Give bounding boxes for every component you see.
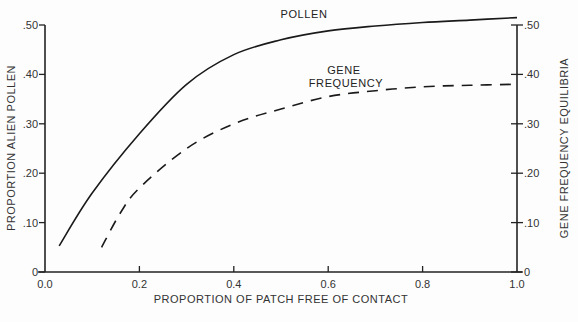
- y-tick-label-left: .50: [23, 19, 38, 31]
- pollen-line: [59, 18, 517, 246]
- y-tick-label-right: .10: [524, 217, 539, 229]
- y-tick-label-right: .30: [524, 118, 539, 130]
- x-tick-label: 1.0: [509, 278, 524, 290]
- x-ticks: 0.00.20.40.60.81.0: [37, 266, 524, 290]
- series-lines: [59, 18, 517, 248]
- gene-frequency-label-line2: FREQUENCY: [309, 77, 384, 89]
- y-tick-label-left: .10: [23, 217, 38, 229]
- x-tick-label: 0.0: [37, 278, 52, 290]
- y-axis-title-right: GENE FREQUENCY EQUILIBRIA: [558, 58, 570, 239]
- y-tick-label-right: .20: [524, 167, 539, 179]
- y-tick-label-left: .30: [23, 118, 38, 130]
- x-tick-label: 0.4: [226, 278, 241, 290]
- gene-frequency-line: [102, 84, 517, 247]
- x-axis-title: PROPORTION OF PATCH FREE OF CONTACT: [154, 293, 408, 305]
- y-tick-label-left: 0: [32, 266, 38, 278]
- gene-frequency-label-line1: GENE: [327, 64, 361, 76]
- y-tick-label-right: .50: [524, 19, 539, 31]
- pollen-label: POLLEN: [280, 8, 327, 20]
- y-tick-label-left: .40: [23, 68, 38, 80]
- x-tick-label: 0.8: [415, 278, 430, 290]
- y-tick-label-right: .40: [524, 68, 539, 80]
- axes: [38, 25, 522, 272]
- x-tick-label: 0.2: [132, 278, 147, 290]
- y-ticks-left: 0.10.20.30.40.50: [23, 19, 45, 278]
- line-chart: 0.00.20.40.60.81.0 0.10.20.30.40.50 0.10…: [0, 0, 578, 322]
- y-ticks-right: 0.10.20.30.40.50: [511, 19, 539, 278]
- x-tick-label: 0.6: [321, 278, 336, 290]
- y-tick-label-right: 0: [524, 266, 530, 278]
- y-axis-title-left: PROPORTION ALIEN POLLEN: [5, 65, 17, 231]
- y-tick-label-left: .20: [23, 167, 38, 179]
